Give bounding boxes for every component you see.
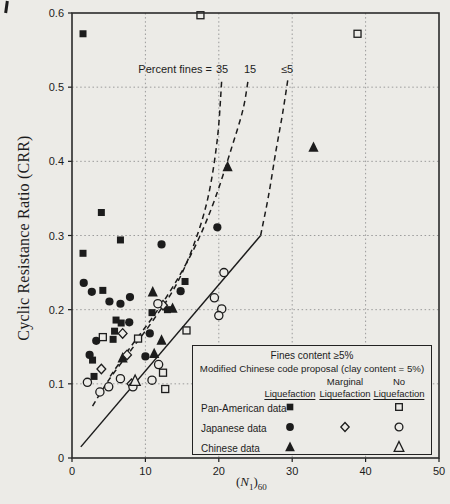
open-square-marker: [183, 327, 190, 334]
filled-triangle-marker: [223, 161, 233, 171]
open-circle-marker: [220, 268, 228, 276]
legend-filled-triangle-icon: [283, 440, 297, 454]
x-title-symbol: N: [240, 474, 249, 489]
y-tick-label: 0.1: [49, 378, 64, 390]
filled-square-marker: [149, 309, 156, 316]
open-square-marker: [99, 334, 106, 341]
liquefaction-chart-figure: 0102030405000.10.20.30.40.50.6 Cyclic Re…: [0, 0, 450, 504]
x-tick-label: 0: [69, 465, 75, 477]
open-square-marker: [135, 335, 142, 342]
x-tick-label: 40: [359, 465, 371, 477]
legend-open-triangle-icon: [392, 440, 406, 454]
open-circle-marker: [155, 360, 163, 368]
open-square-marker: [354, 30, 361, 37]
open-diamond-marker: [118, 329, 127, 339]
legend-col-liquefaction: Liquefaction: [264, 388, 315, 400]
filled-square-marker: [117, 236, 124, 243]
filled-square-glyph: [283, 400, 297, 414]
filled-triangle-marker: [149, 348, 159, 358]
legend-filled-square-icon: [283, 400, 297, 414]
y-tick-label: 0.3: [49, 230, 64, 242]
filled-circle-marker: [80, 279, 88, 287]
filled-triangle-marker: [308, 141, 318, 151]
legend-open-square-icon: [392, 400, 406, 414]
open-diamond-marker: [97, 364, 106, 374]
legend-box: Fines content ≥5% Modified Chinese code …: [192, 345, 432, 455]
open-triangle-glyph: [392, 440, 406, 454]
filled-triangle-marker: [285, 441, 295, 451]
curve-label-le5: ≤5: [281, 63, 293, 75]
open-circle-glyph: [392, 420, 406, 434]
filled-square-marker: [118, 320, 125, 327]
open-circle-marker: [154, 300, 162, 308]
filled-square-marker: [80, 250, 87, 257]
filled-square-marker: [91, 373, 98, 380]
filled-circle-glyph: [283, 420, 297, 434]
y-tick-label: 0: [58, 452, 64, 464]
filled-circle-marker: [86, 351, 94, 359]
filled-triangle-glyph: [283, 440, 297, 454]
open-circle-marker: [116, 375, 124, 383]
y-axis-title: Cyclic Resistance Ratio (CRR): [15, 93, 33, 383]
filled-circle-marker: [286, 423, 294, 431]
open-square-marker: [162, 386, 169, 393]
filled-triangle-marker: [148, 286, 158, 296]
y-tick-label: 0.5: [49, 81, 64, 93]
legend-subtitle: Modified Chinese code proposal (clay con…: [193, 363, 431, 374]
filled-circle-marker: [105, 297, 113, 305]
legend-col-no-top: No: [393, 376, 405, 387]
open-diamond-glyph: [338, 420, 352, 434]
x-tick-label: 10: [139, 465, 151, 477]
legend-filled-circle-icon: [283, 420, 297, 434]
filled-circle-marker: [141, 352, 149, 360]
open-circle-marker: [83, 378, 91, 386]
filled-square-marker: [111, 328, 118, 335]
open-circle-marker: [210, 294, 218, 302]
legend-open-circle-icon: [392, 420, 406, 434]
legend-row-pan-american: Pan-American data: [201, 403, 287, 414]
open-square-marker: [396, 404, 403, 411]
filled-circle-marker: [88, 288, 96, 296]
x-title-sub60: 60: [258, 482, 267, 492]
filled-square-marker: [110, 336, 117, 343]
legend-row-japanese: Japanese data: [201, 423, 267, 434]
filled-square-marker: [80, 30, 87, 37]
legend-row-chinese: Chinese data: [201, 443, 260, 454]
legend-col-no-liquefaction: Liquefaction: [373, 388, 424, 400]
curve-label-35: 35: [216, 63, 228, 75]
open-circle-marker: [96, 388, 104, 396]
x-tick-label: 50: [433, 465, 445, 477]
filled-square-marker: [182, 278, 189, 285]
filled-square-marker: [287, 404, 294, 411]
filled-circle-marker: [177, 287, 185, 295]
filled-circle-marker: [126, 293, 134, 301]
open-circle-marker: [395, 423, 403, 431]
filled-circle-marker: [146, 329, 154, 337]
filled-circle-marker: [116, 300, 124, 308]
filled-circle-marker: [213, 223, 221, 231]
open-square-glyph: [392, 400, 406, 414]
open-diamond-marker: [341, 422, 349, 431]
y-tick-label: 0.2: [49, 304, 64, 316]
filled-square-marker: [98, 209, 105, 216]
legend-col-marginal-liquefaction: Liquefaction: [319, 388, 370, 400]
percent-fines-le5-curve: [261, 80, 288, 236]
filled-triangle-marker: [156, 334, 166, 344]
open-square-marker: [160, 369, 167, 376]
filled-square-marker: [99, 287, 106, 294]
y-tick-label: 0.4: [49, 155, 64, 167]
x-tick-label: 20: [213, 465, 225, 477]
y-tick-label: 0.6: [49, 7, 64, 19]
legend-title: Fines content ≥5%: [193, 350, 431, 361]
open-circle-marker: [215, 312, 223, 320]
filled-circle-marker: [157, 240, 165, 248]
open-circle-marker: [148, 376, 156, 384]
x-tick-label: 30: [286, 465, 298, 477]
legend-open-diamond-icon: [338, 420, 352, 434]
percent-fines-label: Percent fines =: [110, 63, 212, 75]
x-axis-title: (N1)60: [236, 474, 267, 492]
open-circle-marker: [105, 383, 113, 391]
legend-col-marginal-top: Marginal: [327, 376, 363, 387]
curve-label-15: 15: [244, 63, 256, 75]
open-triangle-marker: [394, 441, 404, 451]
